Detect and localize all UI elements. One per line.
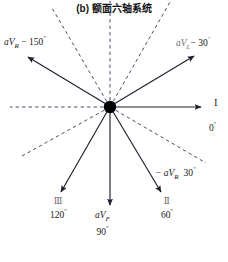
dashed-axis-30 — [110, 107, 206, 163]
figure-container: aVR − 150º aVL− 30º − aVR 30º Ⅰ 0º Ⅲ 120… — [0, 0, 228, 262]
label-lead-iii-degree: º — [64, 207, 66, 216]
label-avl-degree: º — [208, 35, 210, 44]
label-lead-ii-degree: º — [171, 207, 173, 216]
label-lead-ii: Ⅱ 60º — [161, 196, 173, 222]
dashed-axis-minus-60 — [110, 2, 170, 107]
solid-axis-group — [28, 56, 201, 205]
label-avl: aVL− 30º — [176, 36, 210, 51]
label-avf: aVF 90º — [95, 210, 110, 239]
dashed-axis-minus-120 — [52, 8, 110, 107]
label-avl-name: aV — [176, 38, 187, 48]
label-lead-i-degree: º — [214, 120, 216, 129]
label-avr-name: aV — [4, 37, 15, 47]
label-lead-iii-roman: Ⅲ — [50, 196, 67, 207]
label-lead-i-roman: Ⅰ — [214, 99, 218, 108]
label-lead-ii-angle-value: 60 — [161, 210, 171, 220]
axis-arrow-avr — [28, 57, 106, 104]
label-avf-angle: 90º — [95, 224, 110, 239]
label-avf-degree: º — [106, 224, 108, 233]
axis-arrow-avl — [114, 56, 194, 104]
label-minus-avr-name: − aV — [155, 168, 174, 178]
label-lead-ii-roman: Ⅱ — [161, 196, 173, 207]
label-minus-avr-degree: º — [193, 165, 195, 174]
axis-arrow-lead-II — [112, 110, 161, 192]
label-avf-name: aV — [95, 210, 106, 220]
axis-arrow-lead-III — [61, 110, 108, 192]
label-avf-angle-value: 90 — [97, 227, 107, 237]
label-avr-degree: º — [43, 34, 45, 43]
label-lead-iii-angle: 120º — [50, 207, 67, 222]
label-lead-i-angle: 0º — [209, 121, 216, 134]
label-lead-iii: Ⅲ 120º — [50, 196, 67, 222]
label-avf-subscript: F — [106, 215, 110, 223]
origin-dot — [104, 101, 116, 113]
label-avf-name-row: aVF — [95, 210, 110, 224]
dashed-axis-210 — [22, 107, 110, 156]
label-avr: aVR − 150º — [4, 35, 46, 50]
label-minus-avr-angle: 30 — [183, 168, 193, 178]
label-avr-angle: − 150 — [21, 37, 43, 47]
label-lead-iii-angle-value: 120 — [50, 210, 64, 220]
label-avl-angle: − 30 — [190, 38, 207, 48]
label-minus-avr: − aVR 30º — [155, 166, 195, 181]
dashed-axis-group — [10, 1, 206, 163]
label-lead-ii-angle: 60º — [161, 207, 173, 222]
